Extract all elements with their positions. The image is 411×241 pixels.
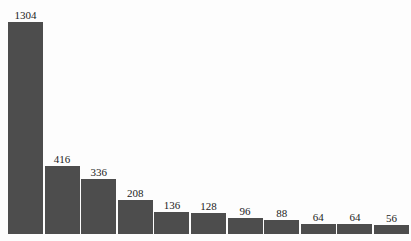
bar-value-label: 416 [54, 153, 71, 165]
bar-rect[interactable] [337, 224, 372, 234]
bar-value-label: 208 [127, 187, 144, 199]
bar-value-label: 56 [386, 212, 397, 224]
bar-rect[interactable] [264, 220, 299, 234]
bar-group[interactable]: 416 [45, 153, 80, 234]
bar-chart: 13044163362081361289688646456 [0, 0, 411, 241]
bar-value-label: 336 [90, 166, 107, 178]
bar-group[interactable]: 336 [81, 166, 116, 234]
bar-rect[interactable] [191, 213, 226, 234]
bar-rect[interactable] [374, 225, 409, 234]
bar-value-label: 96 [240, 205, 251, 217]
bar-group[interactable]: 128 [191, 200, 226, 234]
bar-value-label: 88 [276, 207, 287, 219]
bar-group[interactable]: 96 [228, 205, 263, 234]
bar-rect[interactable] [45, 166, 80, 234]
bar-group[interactable]: 88 [264, 207, 299, 234]
bar-value-label: 136 [164, 199, 181, 211]
bar-rect[interactable] [8, 22, 43, 234]
bar-group[interactable]: 56 [374, 212, 409, 234]
bar-value-label: 64 [349, 211, 360, 223]
bar-rect[interactable] [81, 179, 116, 234]
bar-rect[interactable] [301, 224, 336, 234]
bar-group[interactable]: 136 [154, 199, 189, 234]
bar-rect[interactable] [154, 212, 189, 234]
bar-value-label: 64 [313, 211, 324, 223]
bar-group[interactable]: 208 [118, 187, 153, 234]
bar-rect[interactable] [228, 218, 263, 234]
bar-group[interactable]: 1304 [8, 9, 43, 234]
bar-rect[interactable] [118, 200, 153, 234]
bar-value-label: 128 [200, 200, 217, 212]
bar-group[interactable]: 64 [337, 211, 372, 234]
bar-value-label: 1304 [15, 9, 37, 21]
plot-area: 13044163362081361289688646456 [0, 0, 411, 241]
bar-group[interactable]: 64 [301, 211, 336, 234]
